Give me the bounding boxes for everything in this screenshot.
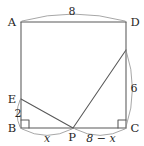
dimension-label-bottom-right: 8 − x	[86, 132, 116, 145]
dimension-label-right: 6	[131, 82, 138, 95]
vertex-label-a: A	[7, 15, 17, 29]
vertex-label-c: C	[131, 121, 140, 135]
dimension-label-left-lower: 2	[15, 107, 22, 120]
dimension-label-top: 8	[69, 5, 76, 18]
vertex-label-p: P	[68, 130, 76, 144]
fold-segment-pf	[73, 50, 126, 128]
vertex-label-b: B	[8, 121, 16, 135]
geometry-figure: A D B C E P 8 6 2 x 8 − x	[0, 0, 144, 146]
right-angle-mark-b	[21, 120, 29, 128]
right-angle-mark-c	[118, 120, 126, 128]
diagram-canvas: A D B C E P 8 6 2 x 8 − x	[0, 0, 144, 146]
dimension-label-bottom-left: x	[44, 132, 51, 145]
vertex-label-d: D	[130, 15, 139, 29]
vertex-label-e: E	[8, 92, 16, 106]
